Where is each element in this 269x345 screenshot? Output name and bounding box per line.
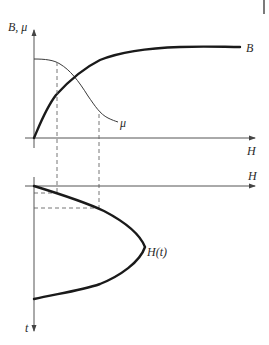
bottom-x-axis-label: H [248,170,257,182]
h-of-t-curve [34,186,145,299]
bottom-panel [25,177,255,331]
diagram-canvas [0,0,269,345]
b-curve-label: B [246,42,253,54]
top-panel [25,30,255,148]
bottom-t-axis-label: t [25,322,28,334]
b-curve [34,47,240,138]
top-x-axis-label: H [247,145,256,157]
mu-curve-label: μ [120,117,126,129]
h-of-t-curve-label: H(t) [147,246,167,258]
top-y-axis-label: B, μ [8,21,27,33]
